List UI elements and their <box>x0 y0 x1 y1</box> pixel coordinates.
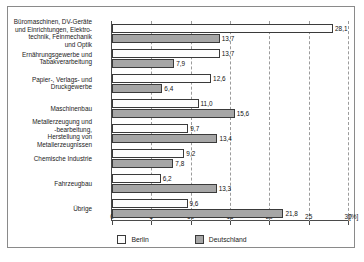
category-label-0: Büromaschinen, DV-Geräte und Einrichtung… <box>0 18 92 48</box>
bar-deutschland-3 <box>112 109 235 118</box>
bar-berlin-0 <box>112 24 333 33</box>
legend-label-berlin: Berlin <box>131 235 148 244</box>
category-label-1: Ernährungsgewerbe und Tabakverarbeitung <box>0 51 92 66</box>
x-axis-unit-label: [%] <box>349 213 358 221</box>
bar-berlin-5 <box>112 149 184 158</box>
value-label-deutschland-0: 13,7 <box>222 34 234 43</box>
value-label-deutschland-1: 7,9 <box>176 59 185 68</box>
bar-deutschland-6 <box>112 184 217 193</box>
bar-berlin-7 <box>112 199 188 208</box>
legend-item-deutschland[interactable]: Deutschland <box>195 235 247 244</box>
x-tick-25 <box>309 221 310 225</box>
bar-berlin-1 <box>112 49 220 58</box>
chart-frame: 051015202530 [%] Büromaschinen, DV-Gerät… <box>7 6 355 248</box>
category-label-4: Metallerzeugung und -bearbeitung, Herste… <box>0 118 92 148</box>
bar-deutschland-1 <box>112 59 174 68</box>
value-label-deutschland-5: 7,8 <box>175 159 184 168</box>
gridline-20 <box>269 21 270 221</box>
legend-item-berlin[interactable]: Berlin <box>117 235 148 244</box>
x-tick-10 <box>191 221 192 225</box>
value-label-deutschland-6: 13,3 <box>219 184 231 193</box>
bar-berlin-3 <box>112 99 199 108</box>
bar-deutschland-4 <box>112 134 217 143</box>
value-label-berlin-1: 13,7 <box>222 49 234 58</box>
legend-label-deutschland: Deutschland <box>209 235 247 244</box>
bar-deutschland-2 <box>112 84 162 93</box>
category-label-6: Fahrzeugbau <box>0 180 92 188</box>
value-label-deutschland-7: 21,8 <box>285 209 297 218</box>
legend-swatch-deutschland <box>195 235 204 244</box>
category-label-7: Übrige <box>0 205 92 213</box>
bar-deutschland-0 <box>112 34 220 43</box>
legend-swatch-berlin <box>117 235 126 244</box>
bar-deutschland-7 <box>112 209 283 218</box>
x-tick-15 <box>230 221 231 225</box>
bar-deutschland-5 <box>112 159 173 168</box>
x-tick-5 <box>151 221 152 225</box>
value-label-berlin-2: 12,6 <box>213 74 225 83</box>
value-label-berlin-6: 6,2 <box>163 174 172 183</box>
value-label-berlin-0: 28,1 <box>335 24 347 33</box>
value-label-deutschland-2: 6,4 <box>164 84 173 93</box>
category-label-2: Papier-, Verlags- und Druckgewerbe <box>0 76 92 91</box>
bar-berlin-2 <box>112 74 211 83</box>
x-tick-20 <box>269 221 270 225</box>
x-tick-label-25: 25 <box>305 213 312 221</box>
x-tick-0 <box>112 221 113 225</box>
value-label-deutschland-3: 15,6 <box>237 109 249 118</box>
gridline-30 <box>348 21 349 221</box>
value-label-berlin-7: 9,6 <box>190 199 199 208</box>
category-label-3: Maschinenbau <box>0 105 92 113</box>
bar-berlin-4 <box>112 124 188 133</box>
value-label-berlin-4: 9,7 <box>190 124 199 133</box>
gridline-25 <box>309 21 310 221</box>
legend: Berlin Deutschland <box>8 235 356 244</box>
value-label-berlin-3: 11,0 <box>201 99 213 108</box>
category-label-5: Chemische Industrie <box>0 155 92 163</box>
value-label-berlin-5: 9,2 <box>186 149 195 158</box>
x-tick-30 <box>348 221 349 225</box>
bar-berlin-6 <box>112 174 161 183</box>
value-label-deutschland-4: 13,4 <box>219 134 231 143</box>
